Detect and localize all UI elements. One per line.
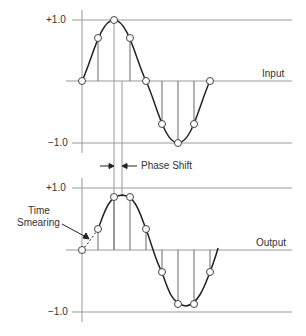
bottom-ymin-label: −1.0 [48, 307, 68, 317]
bottom-ymax-label: +1.0 [46, 183, 66, 193]
phase-shift-label: Phase Shift [141, 161, 192, 171]
top-ymax-label: +1.0 [46, 15, 66, 25]
phase-shift-arrows [100, 164, 137, 169]
time-smearing-label-line1: Time [28, 206, 50, 216]
input-label: Input [262, 69, 284, 79]
phase-shift-diagram: +1.0 −1.0 Input Phase Shift +1.0 −1.0 Ou… [0, 0, 306, 336]
time-smearing-label-line2: Smearing [17, 218, 60, 228]
output-label: Output [256, 238, 286, 248]
smearing-arrow [62, 224, 89, 239]
top-ymin-label: −1.0 [48, 138, 68, 148]
